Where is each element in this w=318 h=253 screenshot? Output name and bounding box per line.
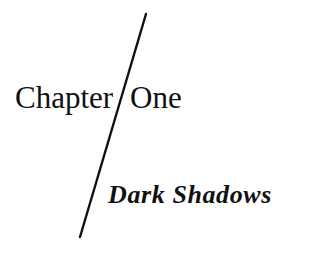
slash-divider bbox=[0, 0, 318, 253]
chapter-heading: Chapter One bbox=[15, 80, 113, 116]
chapter-title: Dark Shadows bbox=[108, 180, 272, 210]
chapter-word: Chapter bbox=[15, 80, 113, 116]
chapter-number: One bbox=[130, 80, 182, 116]
